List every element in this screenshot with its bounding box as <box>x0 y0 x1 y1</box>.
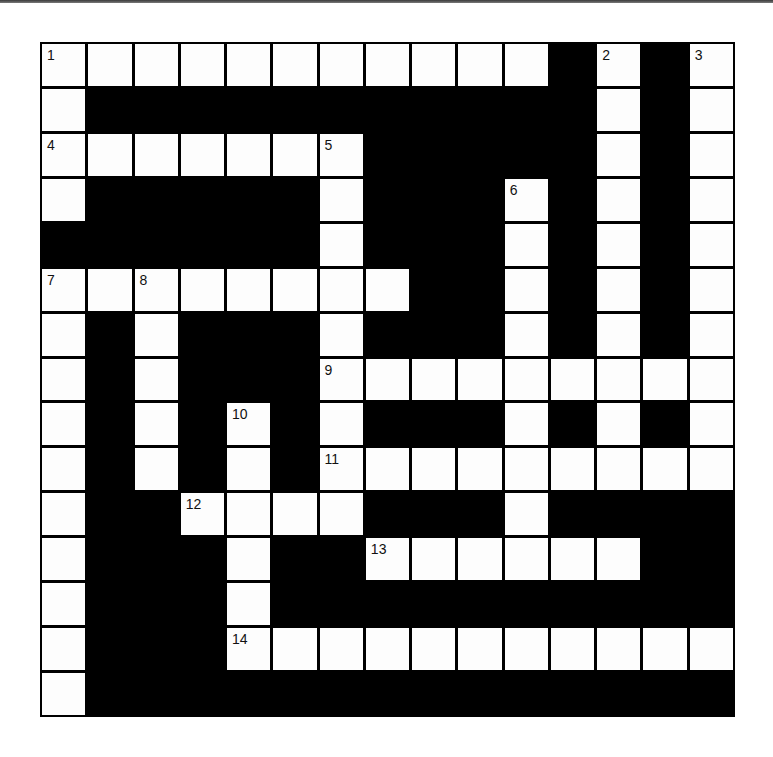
crossword-cell[interactable]: 1 <box>42 44 85 86</box>
crossword-cell[interactable] <box>320 493 363 535</box>
crossword-cell[interactable]: 14 <box>227 628 270 670</box>
crossword-cell[interactable] <box>42 448 85 490</box>
crossword-cell[interactable] <box>505 403 548 445</box>
crossword-cell[interactable] <box>273 44 316 86</box>
crossword-cell[interactable] <box>690 359 733 401</box>
crossword-cell[interactable] <box>320 224 363 266</box>
crossword-cell[interactable] <box>505 538 548 580</box>
crossword-cell[interactable]: 2 <box>597 44 640 86</box>
crossword-cell[interactable] <box>320 44 363 86</box>
crossword-cell[interactable] <box>42 179 85 221</box>
crossword-cell[interactable] <box>458 359 501 401</box>
crossword-cell[interactable] <box>458 44 501 86</box>
crossword-cell[interactable] <box>42 403 85 445</box>
crossword-cell[interactable] <box>42 583 85 625</box>
crossword-cell[interactable]: 10 <box>227 403 270 445</box>
crossword-cell[interactable] <box>597 179 640 221</box>
crossword-cell[interactable] <box>597 359 640 401</box>
crossword-cell[interactable] <box>505 44 548 86</box>
crossword-cell[interactable] <box>690 224 733 266</box>
crossword-cell[interactable] <box>597 403 640 445</box>
crossword-cell[interactable] <box>412 359 455 401</box>
crossword-cell[interactable] <box>42 538 85 580</box>
crossword-cell[interactable] <box>320 269 363 311</box>
crossword-cell[interactable] <box>42 493 85 535</box>
crossword-cell[interactable] <box>597 538 640 580</box>
crossword-cell[interactable] <box>227 493 270 535</box>
crossword-cell[interactable] <box>135 44 178 86</box>
crossword-cell[interactable] <box>412 538 455 580</box>
crossword-cell[interactable] <box>551 448 594 490</box>
crossword-cell[interactable] <box>227 448 270 490</box>
crossword-cell[interactable] <box>690 269 733 311</box>
crossword-cell[interactable] <box>42 673 85 715</box>
crossword-cell[interactable] <box>597 134 640 176</box>
crossword-cell[interactable] <box>320 179 363 221</box>
crossword-cell[interactable] <box>181 269 224 311</box>
crossword-cell[interactable] <box>135 314 178 356</box>
crossword-cell[interactable] <box>597 224 640 266</box>
crossword-cell[interactable] <box>273 134 316 176</box>
crossword-cell[interactable]: 3 <box>690 44 733 86</box>
crossword-cell[interactable] <box>690 134 733 176</box>
crossword-cell[interactable] <box>181 44 224 86</box>
crossword-cell[interactable] <box>181 134 224 176</box>
crossword-cell[interactable]: 4 <box>42 134 85 176</box>
crossword-cell[interactable] <box>643 628 686 670</box>
crossword-cell[interactable] <box>458 628 501 670</box>
crossword-cell[interactable] <box>366 359 409 401</box>
crossword-cell[interactable] <box>42 314 85 356</box>
crossword-cell[interactable] <box>505 448 548 490</box>
crossword-cell[interactable] <box>273 269 316 311</box>
crossword-cell[interactable]: 9 <box>320 359 363 401</box>
crossword-cell[interactable] <box>366 448 409 490</box>
crossword-cell[interactable] <box>227 134 270 176</box>
crossword-cell[interactable] <box>551 628 594 670</box>
crossword-cell[interactable] <box>273 628 316 670</box>
crossword-cell[interactable] <box>643 359 686 401</box>
crossword-cell[interactable] <box>273 493 316 535</box>
crossword-cell[interactable] <box>366 269 409 311</box>
crossword-cell[interactable]: 13 <box>366 538 409 580</box>
crossword-cell[interactable]: 5 <box>320 134 363 176</box>
crossword-cell[interactable] <box>320 314 363 356</box>
crossword-cell[interactable] <box>227 538 270 580</box>
crossword-cell[interactable] <box>135 134 178 176</box>
crossword-cell[interactable] <box>551 538 594 580</box>
crossword-cell[interactable] <box>597 448 640 490</box>
crossword-cell[interactable] <box>320 628 363 670</box>
crossword-cell[interactable] <box>135 448 178 490</box>
crossword-cell[interactable] <box>135 359 178 401</box>
crossword-cell[interactable]: 7 <box>42 269 85 311</box>
crossword-cell[interactable] <box>505 359 548 401</box>
crossword-cell[interactable] <box>597 628 640 670</box>
crossword-cell[interactable] <box>135 403 178 445</box>
crossword-cell[interactable] <box>42 628 85 670</box>
crossword-cell[interactable] <box>597 269 640 311</box>
crossword-cell[interactable] <box>505 493 548 535</box>
crossword-cell[interactable] <box>227 269 270 311</box>
crossword-cell[interactable] <box>690 314 733 356</box>
crossword-cell[interactable] <box>88 44 131 86</box>
crossword-cell[interactable]: 11 <box>320 448 363 490</box>
crossword-cell[interactable] <box>227 583 270 625</box>
crossword-cell[interactable] <box>412 448 455 490</box>
crossword-cell[interactable] <box>690 179 733 221</box>
crossword-cell[interactable] <box>458 448 501 490</box>
crossword-cell[interactable] <box>366 628 409 670</box>
crossword-cell[interactable] <box>690 448 733 490</box>
crossword-cell[interactable] <box>551 359 594 401</box>
crossword-cell[interactable]: 8 <box>135 269 178 311</box>
crossword-cell[interactable] <box>643 448 686 490</box>
crossword-cell[interactable] <box>458 538 501 580</box>
crossword-cell[interactable] <box>690 628 733 670</box>
crossword-cell[interactable] <box>88 134 131 176</box>
crossword-cell[interactable] <box>320 403 363 445</box>
crossword-cell[interactable]: 6 <box>505 179 548 221</box>
crossword-cell[interactable] <box>227 44 270 86</box>
crossword-cell[interactable] <box>690 89 733 131</box>
crossword-cell[interactable] <box>690 403 733 445</box>
crossword-cell[interactable] <box>505 224 548 266</box>
crossword-cell[interactable] <box>366 44 409 86</box>
crossword-cell[interactable] <box>597 314 640 356</box>
